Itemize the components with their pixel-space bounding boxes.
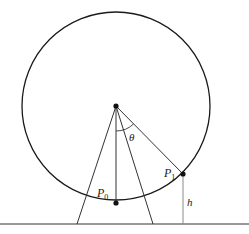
p1-label: P1: [163, 166, 175, 182]
h-label: h: [187, 196, 193, 208]
center-point: [113, 103, 118, 108]
p0-label: P0: [96, 186, 108, 202]
support-leg-left: [77, 106, 116, 224]
theta-label: θ: [129, 131, 135, 143]
support-leg-right: [116, 106, 153, 224]
point-p0: [113, 200, 118, 205]
ferris-wheel-diagram: θ P0 P1 h: [0, 0, 249, 234]
radius-to-p1: [116, 106, 183, 174]
point-p1: [180, 171, 185, 176]
theta-arc: [116, 124, 134, 131]
